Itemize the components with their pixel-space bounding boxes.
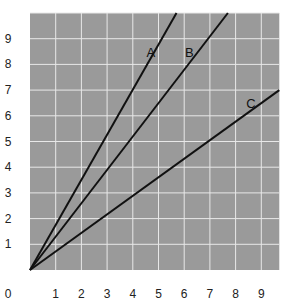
y-tick-label: 3 (5, 186, 12, 200)
series-label-c: C (246, 96, 255, 111)
series-label-a: A (146, 45, 155, 60)
line-chart: 0123456789123456789ABC (0, 0, 292, 302)
series-label-b: B (185, 45, 194, 60)
y-tick-label: 4 (5, 160, 12, 174)
x-tick-label: 1 (52, 287, 59, 301)
x-tick-label: 2 (78, 287, 85, 301)
x-tick-label: 3 (104, 287, 111, 301)
y-tick-label: 1 (5, 237, 12, 251)
y-tick-label: 9 (5, 32, 12, 46)
y-tick-label: 5 (5, 135, 12, 149)
x-tick-label: 5 (155, 287, 162, 301)
y-tick-label: 7 (5, 83, 12, 97)
x-tick-label: 4 (129, 287, 136, 301)
y-tick-label: 8 (5, 57, 12, 71)
x-tick-label: 6 (181, 287, 188, 301)
x-tick-label: 9 (258, 287, 265, 301)
y-tick-label: 6 (5, 109, 12, 123)
x-tick-label: 0 (5, 287, 12, 301)
y-tick-label: 2 (5, 212, 12, 226)
x-tick-label: 8 (232, 287, 239, 301)
x-tick-label: 7 (207, 287, 214, 301)
